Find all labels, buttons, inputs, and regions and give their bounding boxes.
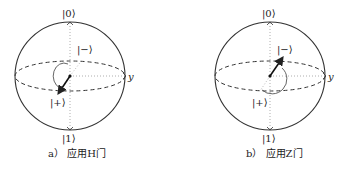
label-ket-0: |0⟩	[262, 8, 276, 20]
state-vector	[60, 76, 70, 91]
label-ket-plus: |+⟩	[252, 97, 268, 109]
rotation-arc	[53, 63, 68, 88]
rotation-arc	[262, 68, 287, 94]
minus-axis	[70, 60, 82, 76]
center-dot	[68, 74, 71, 77]
bloch-sphere-b: |0⟩ |1⟩ |−⟩ |+⟩ y b） 应用Z门	[215, 8, 334, 159]
caption-b: b） 应用Z门	[246, 147, 303, 159]
plus-axis	[260, 76, 270, 91]
label-ket-1: |1⟩	[262, 133, 276, 145]
caption-a: a） 应用H门	[48, 147, 106, 159]
label-ket-minus: |−⟩	[277, 44, 293, 56]
label-y: y	[327, 71, 334, 82]
state-vector	[270, 60, 281, 76]
center-dot	[268, 74, 271, 77]
bloch-sphere-diagrams: |0⟩ |1⟩ |−⟩ |+⟩ y a） 应用H门 |0⟩ |1⟩ |−⟩ |+…	[0, 0, 338, 169]
label-ket-minus: |−⟩	[77, 44, 93, 56]
label-ket-0: |0⟩	[62, 8, 76, 20]
label-ket-1: |1⟩	[62, 133, 76, 145]
bloch-sphere-a: |0⟩ |1⟩ |−⟩ |+⟩ y a） 应用H门	[15, 8, 134, 159]
label-y: y	[127, 71, 134, 82]
label-ket-plus: |+⟩	[50, 97, 66, 109]
